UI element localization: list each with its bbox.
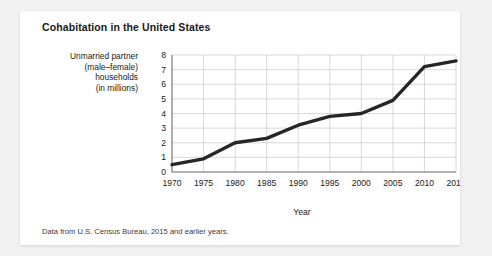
y-tick-labels: 012345678 bbox=[161, 50, 166, 177]
line-chart-plot: 012345678 197019751980198519901995200020… bbox=[144, 45, 460, 200]
y-axis-title-line-1: Unmarried partner bbox=[20, 51, 138, 62]
x-tick-label: 1995 bbox=[320, 178, 339, 188]
y-axis-title: Unmarried partner (male–female) househol… bbox=[20, 51, 138, 93]
y-axis-title-line-3: households bbox=[20, 72, 138, 83]
y-tick-label: 5 bbox=[161, 94, 166, 104]
y-axis-title-line-2: (male–female) bbox=[20, 62, 138, 73]
x-tick-label: 2015 bbox=[446, 178, 460, 188]
page-title: Cohabitation in the United States bbox=[42, 21, 210, 33]
x-tick-label: 1985 bbox=[257, 178, 276, 188]
y-tick-label: 3 bbox=[161, 123, 166, 133]
x-axis-title: Year bbox=[144, 207, 460, 217]
y-tick-label: 0 bbox=[161, 167, 166, 177]
y-tick-label: 7 bbox=[161, 65, 166, 75]
y-tick-label: 1 bbox=[161, 152, 166, 162]
x-tick-label: 2005 bbox=[383, 178, 402, 188]
x-tick-label: 1975 bbox=[194, 178, 213, 188]
y-axis-title-line-4: (in millions) bbox=[20, 83, 138, 94]
y-tick-label: 2 bbox=[161, 138, 166, 148]
x-tick-label: 2000 bbox=[352, 178, 371, 188]
x-tick-label: 1980 bbox=[226, 178, 245, 188]
y-tick-label: 6 bbox=[161, 79, 166, 89]
x-tick-label: 1970 bbox=[162, 178, 181, 188]
series-polyline bbox=[172, 61, 456, 165]
source-note: Data from U.S. Census Bureau, 2015 and e… bbox=[42, 227, 229, 236]
figure-card: Cohabitation in the United States Unmarr… bbox=[20, 11, 460, 245]
x-tick-labels: 1970197519801985199019952000200520102015 bbox=[162, 178, 460, 188]
x-tick-label: 2010 bbox=[415, 178, 434, 188]
y-tick-label: 8 bbox=[161, 50, 166, 60]
chart-svg: 012345678 197019751980198519901995200020… bbox=[144, 45, 460, 200]
y-tick-label: 4 bbox=[161, 109, 166, 119]
data-series-line bbox=[172, 61, 456, 165]
x-tick-label: 1990 bbox=[289, 178, 308, 188]
